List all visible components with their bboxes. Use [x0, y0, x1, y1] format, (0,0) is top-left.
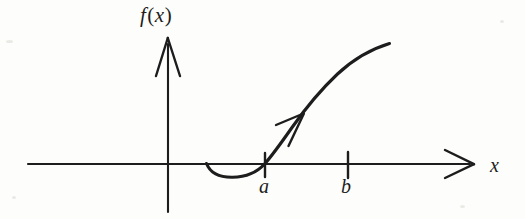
y-axis-label-variable: x: [155, 3, 165, 27]
x-axis-label: x: [490, 155, 499, 175]
tick-a-label: a: [259, 176, 269, 196]
y-axis-label: f(x): [140, 5, 172, 26]
y-axis-label-close-paren: ): [165, 3, 173, 27]
y-axis-label-open-paren: (: [147, 3, 155, 27]
tick-b-label: b: [341, 176, 351, 196]
math-figure: f(x) x a b: [0, 0, 525, 219]
function-curve: [207, 44, 390, 178]
